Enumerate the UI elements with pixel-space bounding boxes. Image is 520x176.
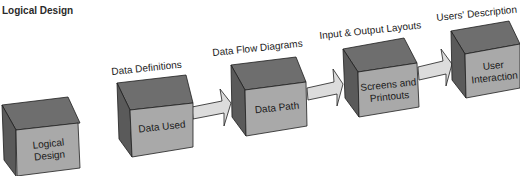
arrow-3 bbox=[418, 49, 452, 86]
box-data-path bbox=[231, 57, 307, 136]
box-label-logical-design: Logical Design bbox=[25, 136, 73, 165]
arrow-2 bbox=[307, 69, 343, 106]
diagram-canvas bbox=[0, 0, 520, 176]
arrow-1 bbox=[192, 89, 231, 126]
box-data-used bbox=[117, 75, 193, 157]
